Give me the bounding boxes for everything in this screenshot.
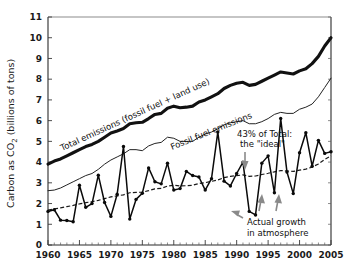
- y-tick-label: 1: [36, 220, 42, 230]
- data-point-marker: [292, 192, 295, 195]
- ideal-label-line2: the "ideal": [240, 139, 285, 149]
- data-point-marker: [185, 170, 188, 173]
- x-tick-label: 1965: [67, 250, 92, 260]
- data-point-marker: [229, 184, 232, 187]
- y-tick-label: 4: [36, 157, 42, 167]
- y-tick-label: 10: [29, 33, 42, 43]
- data-point-marker: [128, 217, 131, 220]
- data-point-marker: [235, 172, 238, 175]
- y-tick-label: 3: [36, 178, 42, 188]
- y-tick-label: 0: [36, 240, 42, 250]
- y-axis-title-pre: Carbon as CO: [5, 143, 16, 208]
- x-tick-label: 1995: [256, 250, 281, 260]
- data-point-marker: [78, 184, 81, 187]
- x-tick-label: 2005: [318, 250, 343, 260]
- data-point-marker: [46, 210, 49, 213]
- y-tick-label: 11: [29, 12, 42, 22]
- actual-growth-line1: Actual growth: [247, 217, 306, 227]
- data-point-marker: [260, 161, 263, 164]
- y-tick-label: 7: [36, 95, 42, 105]
- data-point-marker: [222, 179, 225, 182]
- data-point-marker: [273, 191, 276, 194]
- y-tick-label: 8: [36, 74, 42, 84]
- data-point-marker: [71, 220, 74, 223]
- y-tick-label: 6: [36, 116, 42, 126]
- data-point-marker: [134, 198, 137, 201]
- actual-growth-line2: in atmosphere: [247, 228, 308, 238]
- data-point-marker: [115, 193, 118, 196]
- data-point-marker: [53, 208, 56, 211]
- data-point-marker: [147, 166, 150, 169]
- data-point-marker: [122, 145, 125, 148]
- data-point-marker: [285, 170, 288, 173]
- data-point-marker: [210, 177, 213, 180]
- x-tick-label: 1960: [35, 250, 60, 260]
- data-point-marker: [172, 188, 175, 191]
- ideal-label-line1: 43% of Total:: [237, 129, 292, 139]
- chart-figure: 01234567891011 1960196519701975198019851…: [0, 0, 350, 277]
- x-tick-label: 1985: [193, 250, 218, 260]
- y-axis-title-post: (billions of tons): [5, 59, 16, 139]
- data-point-marker: [178, 187, 181, 190]
- y-tick-label: 5: [36, 137, 42, 147]
- data-point-marker: [59, 218, 62, 221]
- data-point-marker: [304, 131, 307, 134]
- data-point-marker: [266, 154, 269, 157]
- chart-canvas: 01234567891011 1960196519701975198019851…: [0, 0, 350, 277]
- data-point-marker: [204, 188, 207, 191]
- x-tick-label: 1970: [98, 250, 123, 260]
- data-point-marker: [103, 201, 106, 204]
- data-point-marker: [323, 152, 326, 155]
- data-point-marker: [109, 215, 112, 218]
- data-point-marker: [197, 175, 200, 178]
- data-point-marker: [160, 182, 163, 185]
- data-point-marker: [65, 219, 68, 222]
- data-point-marker: [97, 173, 100, 176]
- data-point-marker: [153, 180, 156, 183]
- x-tick-label: 1990: [224, 250, 249, 260]
- x-tick-label: 2000: [287, 250, 312, 260]
- data-point-marker: [317, 139, 320, 142]
- data-point-marker: [191, 174, 194, 177]
- y-tick-label: 2: [36, 199, 42, 209]
- data-point-marker: [329, 150, 332, 153]
- data-point-marker: [310, 165, 313, 168]
- data-point-marker: [90, 202, 93, 205]
- x-tick-label: 1975: [130, 250, 155, 260]
- y-tick-label: 9: [36, 54, 42, 64]
- data-point-marker: [298, 151, 301, 154]
- data-point-marker: [141, 191, 144, 194]
- x-tick-label: 1980: [161, 250, 186, 260]
- data-point-marker: [84, 206, 87, 209]
- data-point-marker: [166, 161, 169, 164]
- data-point-marker: [248, 210, 251, 213]
- data-point-marker: [279, 117, 282, 120]
